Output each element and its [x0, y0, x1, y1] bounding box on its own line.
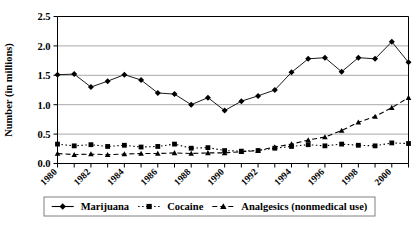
- ytick-label-1.5: 1.5: [37, 70, 50, 81]
- ytick-label-2.0: 2.0: [37, 41, 50, 52]
- line-chart: 0.00.51.01.52.02.51980198219841986198819…: [0, 0, 419, 226]
- xtick-label-1990: 1990: [206, 167, 227, 188]
- xtick-label-1984: 1984: [105, 167, 126, 188]
- legend-label-0: Marijuana: [81, 201, 130, 212]
- ytick-label-0.0: 0.0: [37, 158, 50, 169]
- y-axis-title: Number (in millions): [3, 43, 15, 137]
- xtick-label-1996: 1996: [306, 167, 327, 188]
- series-marijuana: [55, 39, 412, 114]
- xtick-label-1982: 1982: [72, 167, 93, 188]
- series-cocaine: [55, 141, 411, 154]
- xtick-label-1998: 1998: [339, 167, 360, 188]
- series-line-0: [58, 42, 409, 111]
- chart-container: 0.00.51.01.52.02.51980198219841986198819…: [0, 0, 419, 226]
- xtick-label-1986: 1986: [139, 167, 160, 188]
- xtick-label-1980: 1980: [38, 167, 59, 188]
- xtick-label-2000: 2000: [373, 167, 394, 188]
- ytick-label-1.0: 1.0: [37, 100, 50, 111]
- ytick-label-0.5: 0.5: [37, 129, 50, 140]
- xtick-label-1992: 1992: [239, 167, 260, 188]
- square-icon: [147, 204, 152, 209]
- xtick-label-1994: 1994: [272, 167, 293, 188]
- ytick-label-2.5: 2.5: [37, 11, 50, 22]
- series-line-1: [58, 143, 409, 151]
- xtick-label-1988: 1988: [172, 167, 193, 188]
- legend-label-2: Analgesics (nonmedical use): [241, 201, 368, 213]
- legend-label-1: Cocaine: [167, 201, 204, 212]
